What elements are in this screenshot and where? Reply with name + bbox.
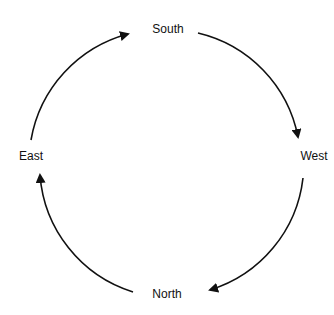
- cycle-diagram: [0, 0, 334, 315]
- arrow-north-to-east: [40, 175, 133, 292]
- arrow-west-to-north: [210, 178, 303, 290]
- node-east: East: [19, 149, 43, 163]
- node-north: North: [152, 287, 181, 301]
- node-south: South: [152, 22, 183, 36]
- arrow-east-to-south: [31, 34, 128, 140]
- arrow-south-to-west: [198, 33, 298, 137]
- node-west: West: [300, 149, 327, 163]
